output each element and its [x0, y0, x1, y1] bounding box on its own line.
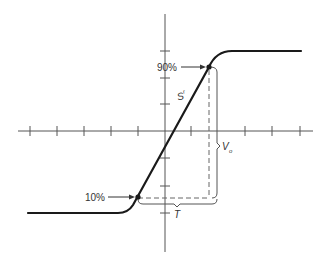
label-10-percent: 10%	[85, 192, 105, 203]
point-10-marker	[135, 194, 140, 199]
slew-rate-diagram: 90% 10% S r V o T	[0, 0, 327, 262]
slope-label-sub: r	[182, 88, 186, 95]
vo-bracket	[210, 67, 220, 198]
label-90-percent: 90%	[157, 62, 177, 73]
arrow-10	[108, 195, 135, 200]
t-bracket	[138, 199, 217, 207]
amplitude-label: V o	[222, 141, 233, 154]
vertical-axis	[160, 14, 170, 252]
slope-label: S r	[175, 88, 188, 102]
point-90-marker	[206, 64, 211, 69]
amplitude-label-sub: o	[229, 148, 233, 154]
arrow-90	[181, 65, 206, 70]
time-label: T	[174, 209, 181, 220]
